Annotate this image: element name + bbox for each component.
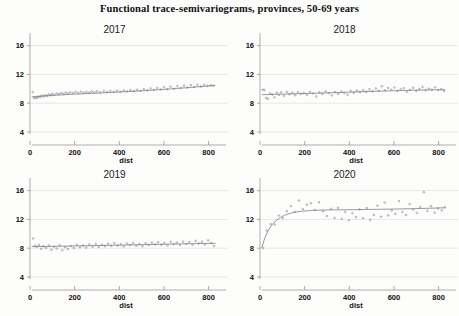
svg-text:dist: dist bbox=[119, 301, 133, 310]
svg-text:4: 4 bbox=[250, 128, 255, 137]
svg-text:16: 16 bbox=[246, 186, 254, 195]
svg-text:800: 800 bbox=[202, 293, 215, 302]
panel-2020: 2020 4812160200400600800dist bbox=[230, 167, 459, 312]
svg-text:800: 800 bbox=[432, 293, 445, 302]
svg-text:200: 200 bbox=[298, 293, 311, 302]
svg-text:16: 16 bbox=[246, 41, 254, 50]
svg-text:4: 4 bbox=[250, 273, 255, 282]
svg-text:8: 8 bbox=[20, 99, 24, 108]
svg-text:800: 800 bbox=[202, 148, 215, 157]
svg-text:dist: dist bbox=[119, 156, 133, 165]
panel-2019: 2019 4812160200400600800dist bbox=[0, 167, 229, 312]
svg-text:dist: dist bbox=[349, 156, 363, 165]
figure-container: Functional trace-semivariograms, provinc… bbox=[0, 0, 459, 316]
svg-text:600: 600 bbox=[388, 293, 401, 302]
svg-text:200: 200 bbox=[298, 148, 311, 157]
svg-text:600: 600 bbox=[388, 148, 401, 157]
svg-text:12: 12 bbox=[16, 215, 24, 224]
svg-text:dist: dist bbox=[349, 301, 363, 310]
panel-2018: 2018 4812160200400600800dist bbox=[230, 22, 459, 167]
plot-2017: 4812160200400600800dist bbox=[0, 22, 229, 167]
svg-text:12: 12 bbox=[16, 70, 24, 79]
svg-text:8: 8 bbox=[20, 244, 24, 253]
svg-text:200: 200 bbox=[68, 293, 81, 302]
svg-text:12: 12 bbox=[246, 215, 254, 224]
svg-text:4: 4 bbox=[20, 273, 25, 282]
svg-text:16: 16 bbox=[16, 186, 24, 195]
svg-text:800: 800 bbox=[432, 148, 445, 157]
plot-2018: 4812160200400600800dist bbox=[230, 22, 459, 167]
svg-text:12: 12 bbox=[246, 70, 254, 79]
svg-text:600: 600 bbox=[158, 293, 171, 302]
svg-text:16: 16 bbox=[16, 41, 24, 50]
svg-text:0: 0 bbox=[28, 293, 32, 302]
figure-title: Functional trace-semivariograms, provinc… bbox=[0, 3, 459, 14]
svg-text:0: 0 bbox=[258, 148, 262, 157]
plot-2019: 4812160200400600800dist bbox=[0, 167, 229, 312]
panel-2017: 2017 4812160200400600800dist bbox=[0, 22, 229, 167]
plot-2020: 4812160200400600800dist bbox=[230, 167, 459, 312]
svg-text:0: 0 bbox=[258, 293, 262, 302]
svg-text:600: 600 bbox=[158, 148, 171, 157]
svg-text:4: 4 bbox=[20, 128, 25, 137]
svg-text:8: 8 bbox=[250, 244, 254, 253]
svg-text:200: 200 bbox=[68, 148, 81, 157]
svg-text:0: 0 bbox=[28, 148, 32, 157]
svg-text:8: 8 bbox=[250, 99, 254, 108]
